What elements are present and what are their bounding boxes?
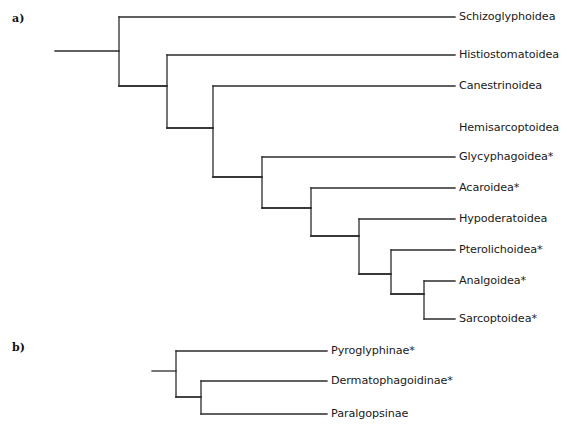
panel-a-label: a) <box>12 12 24 25</box>
taxon-label-a-0: Schizoglyphoidea <box>459 11 555 22</box>
panel-b-label: b) <box>12 341 25 354</box>
taxon-label-a-4: Glycyphagoidea* <box>459 151 553 162</box>
taxon-label-a-3: Hemisarcoptoidea <box>459 122 559 133</box>
taxon-label-a-2: Canestrinoidea <box>459 80 542 91</box>
taxon-label-a-5: Acaroidea* <box>459 182 519 193</box>
taxon-label-b-2: Paralgopsinae <box>331 408 408 419</box>
taxon-label-a-6: Hypoderatoidea <box>459 213 547 224</box>
taxon-label-a-8: Analgoidea* <box>459 275 526 286</box>
taxon-label-a-1: Histiostomatoidea <box>459 49 559 60</box>
taxon-label-a-7: Pterolichoidea* <box>459 244 543 255</box>
taxon-label-b-1: Dermatophagoidinae* <box>331 375 453 386</box>
phylogeny-figure: a) b) SchizoglyphoideaHistiostomatoideaC… <box>0 0 567 429</box>
taxon-label-b-0: Pyroglyphinae* <box>331 345 415 356</box>
taxon-label-a-9: Sarcoptoidea* <box>459 313 537 324</box>
